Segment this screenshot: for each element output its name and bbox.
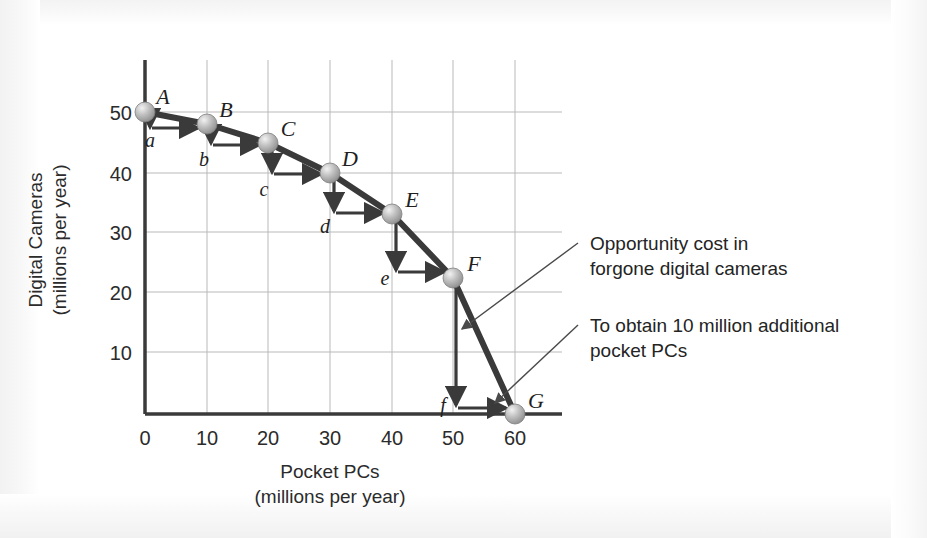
y-tick-labels: 50 40 30 20 10 (110, 102, 132, 364)
step-label-b: b (199, 148, 209, 170)
annotation-opportunity-cost-line1: Opportunity cost in (590, 233, 748, 254)
data-point-label-B: B (219, 97, 232, 122)
data-point-A[interactable] (135, 102, 155, 122)
x-tick-labels: 0 10 20 30 40 50 60 (139, 427, 526, 449)
data-point-label-C: C (281, 116, 296, 141)
data-point-C[interactable] (258, 133, 278, 153)
y-axis-title-line1: Digital Cameras (25, 172, 46, 307)
annotation-additional-pocket-pcs: To obtain 10 million additional pocket P… (590, 315, 839, 361)
y-tick-40: 40 (110, 163, 132, 185)
step-label-a: a (145, 129, 155, 151)
annotation-opportunity-cost: Opportunity cost in forgone digital came… (590, 233, 788, 279)
data-point-G[interactable] (505, 404, 525, 424)
data-point-D[interactable] (320, 163, 340, 183)
ppf-chart: 50 40 30 20 10 0 10 20 30 40 50 60 Digit… (0, 0, 927, 538)
y-tick-20: 20 (110, 282, 132, 304)
data-point-label-D: D (341, 146, 358, 171)
x-tick-50: 50 (442, 427, 464, 449)
annotation-additional-pocket-pcs-line2: pocket PCs (590, 340, 687, 361)
x-tick-0: 0 (139, 427, 150, 449)
step-label-e: e (381, 267, 390, 289)
axis-lines (145, 60, 562, 414)
annotation-opportunity-cost-line2: forgone digital cameras (590, 258, 788, 279)
x-axis-title-line2: (millions per year) (255, 486, 406, 507)
x-axis-title-line1: Pocket PCs (280, 461, 379, 482)
y-tick-30: 30 (110, 222, 132, 244)
step-label-d: d (320, 215, 331, 237)
y-tick-10: 10 (110, 342, 132, 364)
y-tick-50: 50 (110, 102, 132, 124)
data-point-F[interactable] (443, 268, 463, 288)
y-axis-title-line2: (millions per year) (49, 165, 70, 316)
x-axis-title: Pocket PCs (millions per year) (255, 461, 406, 507)
y-axis-title: Digital Cameras (millions per year) (25, 165, 70, 316)
grid-lines (145, 60, 562, 414)
figure-root: 50 40 30 20 10 0 10 20 30 40 50 60 Digit… (0, 0, 927, 538)
annotation-additional-pocket-pcs-line1: To obtain 10 million additional (590, 315, 839, 336)
data-point-E[interactable] (382, 204, 402, 224)
data-point-label-A: A (154, 84, 170, 109)
x-tick-60: 60 (504, 427, 526, 449)
x-tick-10: 10 (196, 427, 218, 449)
step-label-c: c (260, 178, 269, 200)
data-point-label-F: F (466, 251, 481, 276)
data-point-label-E: E (404, 187, 419, 212)
x-tick-20: 20 (257, 427, 279, 449)
data-point-B[interactable] (197, 114, 217, 134)
data-point-label-G: G (528, 388, 544, 413)
x-tick-40: 40 (381, 427, 403, 449)
data-point-labels: A B C D E F G (154, 84, 544, 413)
x-tick-30: 30 (319, 427, 341, 449)
